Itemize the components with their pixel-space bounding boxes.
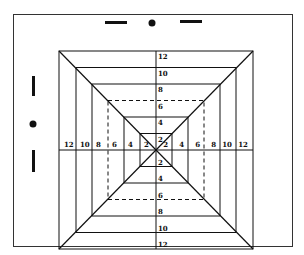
left-markers [30, 76, 37, 172]
ring-label-4: 4 [158, 118, 163, 127]
ring-label-2: 2 [163, 140, 168, 149]
ring-label-12: 12 [158, 240, 168, 249]
ring-label-2: 2 [158, 158, 163, 167]
ring-label-10: 10 [158, 69, 168, 78]
ring-label-4: 4 [158, 174, 163, 183]
outer-frame [14, 15, 293, 247]
ring-label-10: 10 [158, 224, 168, 233]
ring-label-8: 8 [211, 140, 216, 149]
ring-label-4: 4 [128, 140, 133, 149]
ring-label-8: 8 [158, 85, 163, 94]
ring-label-2: 2 [144, 140, 149, 149]
ring-label-8: 8 [158, 207, 163, 216]
dash-icon [32, 76, 35, 96]
dash-icon [180, 20, 202, 23]
dot-icon [149, 20, 156, 27]
dash-icon [32, 150, 35, 172]
dash-icon [105, 21, 127, 24]
ring-label-8: 8 [96, 140, 101, 149]
ring-label-6: 6 [158, 191, 163, 200]
ring-label-12: 12 [64, 140, 74, 149]
ring-label-12: 12 [158, 52, 168, 61]
grid [59, 51, 253, 249]
ring-label-6: 6 [158, 102, 163, 111]
ring-label-10: 10 [222, 140, 232, 149]
ring-label-10: 10 [80, 140, 90, 149]
concentric-grid-diagram: 22224444666688881010101012121212 [0, 0, 304, 255]
ring-label-12: 12 [238, 140, 248, 149]
dot-icon [30, 121, 37, 128]
ring-label-6: 6 [112, 140, 117, 149]
ring-label-4: 4 [179, 140, 184, 149]
top-markers [105, 20, 202, 27]
ring-label-6: 6 [195, 140, 200, 149]
